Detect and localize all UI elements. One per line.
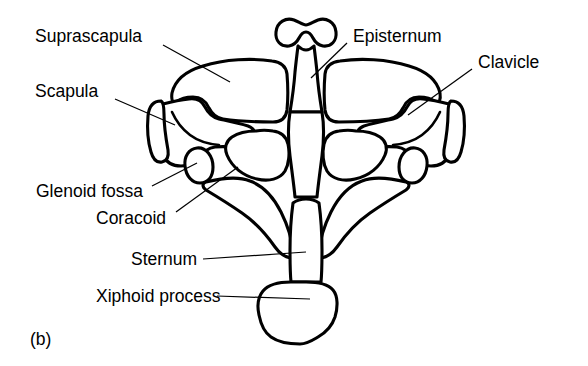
glenoid-fossa-left: [185, 148, 213, 183]
clavicle-right: [444, 101, 465, 162]
glenoid-fossa-right: [399, 148, 427, 183]
label-coracoid: Coracoid: [96, 210, 166, 228]
sternum-bone: [290, 199, 322, 282]
coracoid-wing-left: [203, 178, 293, 258]
coracoid-plate-right: [323, 130, 386, 180]
label-clavicle: Clavicle: [478, 54, 539, 72]
label-episternum: Episternum: [353, 28, 442, 46]
label-suprascapula: Suprascapula: [35, 28, 142, 46]
label-scapula: Scapula: [35, 83, 98, 101]
coracoid-wing-right: [319, 178, 409, 258]
figure-caption: (b): [30, 331, 51, 349]
label-xiphoid-process: Xiphoid process: [96, 288, 221, 306]
label-glenoid-fossa: Glenoid fossa: [36, 183, 143, 201]
coracoid-plate-left: [226, 130, 289, 180]
xiphoid-process-bone: [258, 282, 337, 344]
sternal-column: [289, 112, 324, 197]
clavicle-left: [148, 101, 169, 162]
figure-container: Suprascapula Scapula Episternum Clavicle…: [0, 0, 588, 366]
label-sternum: Sternum: [131, 251, 197, 269]
